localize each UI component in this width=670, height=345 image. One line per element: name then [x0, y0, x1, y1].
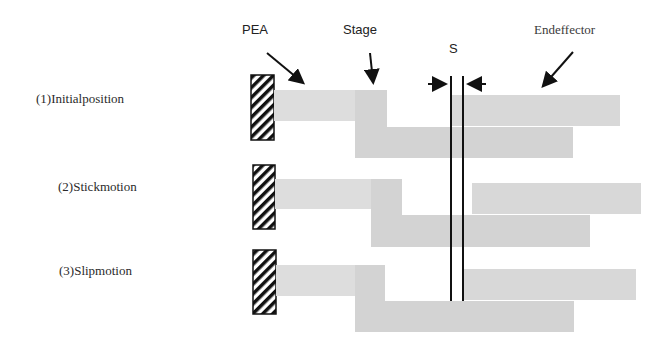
- row-label-slip-motion: (3)Slipmotion: [59, 263, 132, 279]
- end-effector-label: Endeffector: [534, 22, 595, 38]
- row-initial-position: [251, 75, 620, 158]
- diagram-graphics: [0, 0, 670, 345]
- callout-arrows: [267, 52, 573, 85]
- stick-slip-diagram: PEA Stage S Endeffector (1)Initialpositi…: [0, 0, 670, 345]
- stage-column: [355, 90, 387, 130]
- row-slip-motion: [253, 250, 636, 332]
- pea-bar: [274, 90, 355, 121]
- stage-column: [355, 265, 385, 305]
- end-effector-pointer-arrow-icon: [544, 52, 573, 85]
- gap-s-label: S: [449, 41, 458, 56]
- end-effector: [463, 269, 636, 300]
- pea-bar: [275, 179, 371, 209]
- pea-label: PEA: [242, 22, 268, 37]
- stage-column: [371, 179, 402, 219]
- pea-actuator: [253, 165, 275, 229]
- pea-actuator: [251, 75, 274, 140]
- stage-pointer-arrow-icon: [370, 53, 373, 81]
- stage-bottom-bar: [371, 215, 590, 247]
- stage-label: Stage: [343, 22, 377, 37]
- stage-bottom-bar: [355, 301, 574, 332]
- row-label-stick-motion: (2)Stickmotion: [58, 179, 137, 195]
- row-label-initial-position: (1)Initialposition: [36, 91, 124, 107]
- end-effector: [472, 183, 641, 214]
- row-stick-motion: [253, 165, 641, 247]
- pea-bar: [276, 265, 355, 296]
- end-effector: [452, 95, 620, 126]
- pea-actuator: [253, 250, 276, 314]
